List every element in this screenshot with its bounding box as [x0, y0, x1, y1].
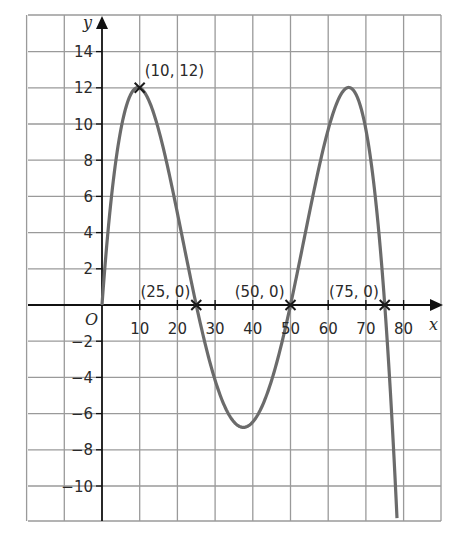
y-tick-label: 8 [83, 152, 93, 170]
y-tick-label: −8 [71, 441, 93, 459]
y-tick-label: 10 [74, 116, 93, 134]
x-tick-label: 20 [168, 320, 187, 338]
x-tick-label: 70 [356, 320, 375, 338]
origin-label: O [85, 310, 98, 329]
chart: 10203040506070801412108642−2−4−6−8−10xyO… [0, 0, 452, 535]
y-axis-label: y [82, 13, 93, 32]
x-axis-label: x [429, 315, 438, 334]
y-tick-label: −10 [61, 478, 93, 496]
point-label: (25, 0) [140, 283, 190, 301]
y-tick-label: 4 [83, 224, 93, 242]
y-tick-label: 14 [74, 43, 93, 61]
point-label: (50, 0) [235, 283, 285, 301]
y-axis-arrow-icon [96, 16, 108, 29]
x-tick-label: 40 [243, 320, 262, 338]
y-tick-label: 12 [74, 79, 93, 97]
curve [102, 87, 397, 518]
y-tick-label: −6 [71, 405, 93, 423]
curve-line [102, 87, 397, 518]
x-tick-label: 10 [130, 320, 149, 338]
x-tick-label: 80 [394, 320, 413, 338]
x-tick-label: 30 [206, 320, 225, 338]
y-tick-label: 6 [83, 188, 93, 206]
y-tick-label: −4 [71, 369, 93, 387]
x-tick-label: 50 [281, 320, 300, 338]
point-label: (10, 12) [145, 62, 204, 80]
y-tick-label: 2 [83, 260, 93, 278]
y-tick-label: −2 [71, 333, 93, 351]
point-label: (75, 0) [329, 283, 379, 301]
x-tick-label: 60 [319, 320, 338, 338]
